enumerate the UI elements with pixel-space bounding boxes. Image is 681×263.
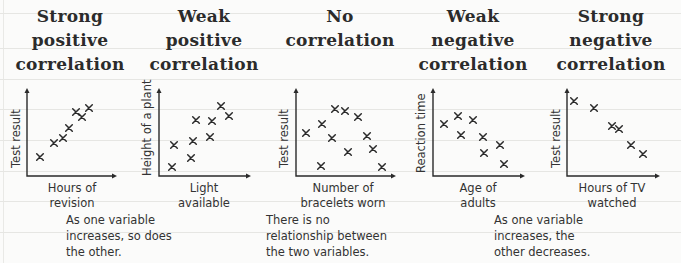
- data-point-cross-icon: [207, 134, 214, 141]
- data-point-cross-icon: [79, 114, 86, 121]
- caption-negative: As one variable increases, the other dec…: [494, 212, 644, 260]
- data-point-cross-icon: [355, 114, 362, 121]
- data-point-cross-icon: [379, 164, 386, 171]
- axes: [567, 92, 656, 176]
- data-point-cross-icon: [218, 103, 225, 110]
- data-point-cross-icon: [342, 108, 349, 115]
- xlabel-line: Age of: [428, 181, 528, 196]
- data-point-cross-icon: [209, 118, 216, 125]
- data-point-cross-icon: [37, 154, 44, 161]
- ylabel-weak-negative: Reaction time: [414, 93, 428, 173]
- data-point-cross-icon: [370, 146, 377, 153]
- caption-line: As one variable: [66, 212, 206, 228]
- data-point-cross-icon: [60, 135, 67, 142]
- scatter-plot: [25, 88, 118, 179]
- xlabel-line: Number of: [286, 181, 400, 196]
- xlabel-strong-positive: Hours of revision: [22, 181, 122, 211]
- scatter-plot: [431, 88, 526, 179]
- scatter-plot: [294, 88, 397, 179]
- xlabel-weak-negative: Age of adults: [428, 181, 528, 211]
- caption-line: the other.: [66, 244, 206, 260]
- axes: [27, 92, 113, 176]
- data-point-cross-icon: [345, 149, 352, 156]
- data-point-cross-icon: [51, 140, 58, 147]
- xlabel-no-correlation: Number of bracelets worn: [286, 181, 400, 211]
- y-arrow-icon: [25, 88, 30, 93]
- data-point-cross-icon: [66, 125, 73, 132]
- data-point-cross-icon: [193, 117, 200, 124]
- xlabel-strong-negative: Hours of TV watched: [562, 181, 662, 211]
- data-point-cross-icon: [171, 142, 178, 149]
- axes: [159, 92, 247, 176]
- xlabel-line: available: [154, 196, 254, 211]
- x-arrow-icon: [520, 174, 525, 179]
- x-arrow-icon: [655, 174, 660, 179]
- data-point-cross-icon: [609, 123, 616, 130]
- data-point-cross-icon: [497, 142, 504, 149]
- caption-line: increases, the: [494, 228, 644, 244]
- data-point-cross-icon: [319, 121, 326, 128]
- data-point-cross-icon: [303, 130, 310, 137]
- xlabel-line: bracelets worn: [286, 196, 400, 211]
- data-point-cross-icon: [591, 105, 598, 112]
- scatter-plot: [157, 88, 252, 179]
- ylabel-no-correlation: Test result: [277, 109, 291, 168]
- axes: [433, 92, 521, 176]
- caption-line: There is no: [266, 212, 416, 228]
- caption-line: As one variable: [494, 212, 644, 228]
- xlabel-weak-positive: Light available: [154, 181, 254, 211]
- y-arrow-icon: [157, 88, 162, 93]
- x-arrow-icon: [391, 174, 396, 179]
- data-point-cross-icon: [169, 164, 176, 171]
- caption-line: increases, so does: [66, 228, 206, 244]
- data-point-cross-icon: [455, 113, 462, 120]
- xlabel-line: watched: [562, 196, 662, 211]
- data-point-cross-icon: [226, 113, 233, 120]
- y-arrow-icon: [431, 88, 436, 93]
- data-point-cross-icon: [190, 138, 197, 145]
- data-point-cross-icon: [86, 105, 93, 112]
- caption-line: other decreases.: [494, 244, 644, 260]
- data-point-cross-icon: [640, 151, 647, 158]
- caption-none: There is no relationship between the two…: [266, 212, 416, 260]
- xlabel-line: Hours of TV: [562, 181, 662, 196]
- xlabel-line: Hours of: [22, 181, 122, 196]
- data-point-cross-icon: [480, 134, 487, 141]
- x-arrow-icon: [246, 174, 251, 179]
- xlabel-line: Light: [154, 181, 254, 196]
- data-point-cross-icon: [470, 117, 477, 124]
- caption-line: the two variables.: [266, 244, 416, 260]
- scatter-plot: [565, 88, 661, 179]
- data-point-cross-icon: [501, 161, 508, 168]
- data-point-cross-icon: [364, 133, 371, 140]
- xlabel-line: revision: [22, 196, 122, 211]
- data-point-cross-icon: [329, 135, 336, 142]
- ylabel-strong-negative: Test result: [549, 109, 563, 168]
- caption-line: relationship between: [266, 228, 416, 244]
- xlabel-line: adults: [428, 196, 528, 211]
- data-point-cross-icon: [441, 121, 448, 128]
- y-arrow-icon: [294, 88, 299, 93]
- x-arrow-icon: [112, 174, 117, 179]
- data-point-cross-icon: [332, 106, 339, 113]
- ylabel-strong-positive: Test result: [9, 109, 23, 168]
- data-point-cross-icon: [571, 98, 578, 105]
- data-point-cross-icon: [318, 163, 325, 170]
- data-point-cross-icon: [188, 155, 195, 162]
- data-point-cross-icon: [628, 142, 635, 149]
- data-point-cross-icon: [481, 150, 488, 157]
- data-point-cross-icon: [458, 132, 465, 139]
- data-point-cross-icon: [616, 126, 623, 133]
- caption-positive: As one variable increases, so does the o…: [66, 212, 206, 260]
- ylabel-weak-positive: Height of a plant: [140, 80, 154, 176]
- axes: [296, 92, 392, 176]
- y-arrow-icon: [565, 88, 570, 93]
